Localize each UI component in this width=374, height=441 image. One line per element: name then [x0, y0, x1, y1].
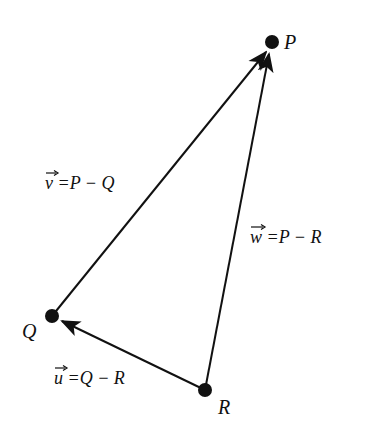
vector-w-arrow — [205, 54, 269, 390]
vector-w-label: w =P − R — [250, 225, 321, 248]
vector-v-label: v =P − Q — [45, 171, 114, 194]
svg-text:v =P − Q: v =P − Q — [45, 173, 114, 193]
point-R-label: R — [217, 396, 230, 418]
point-R — [198, 383, 212, 397]
point-Q — [45, 309, 59, 323]
point-P-label: P — [283, 31, 296, 53]
point-P — [265, 35, 279, 49]
point-Q-label: Q — [22, 320, 37, 342]
svg-text:w =P − R: w =P − R — [250, 227, 321, 247]
vector-triangle-diagram: P Q R v =P − Q w =P − R u =Q − R — [0, 0, 374, 441]
svg-text:u =Q − R: u =Q − R — [54, 368, 125, 388]
vector-u-label: u =Q − R — [54, 366, 125, 389]
